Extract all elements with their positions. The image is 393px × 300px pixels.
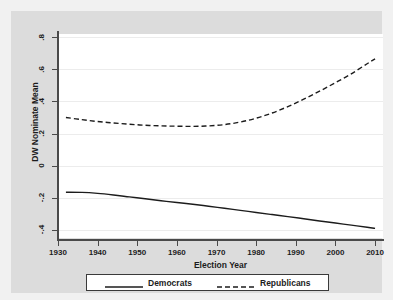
y-tick-label: -.4 — [37, 220, 46, 240]
x-axis-title: Election Year — [58, 260, 383, 270]
legend-key-republicans — [217, 278, 255, 288]
y-tick-mark — [52, 69, 58, 70]
x-tick-mark — [177, 241, 178, 246]
x-tick-mark — [137, 241, 138, 246]
legend-label: Republicans — [260, 278, 311, 288]
chart-legend: DemocratsRepublicans — [86, 274, 329, 291]
legend-entry-republicans: Republicans — [217, 275, 311, 290]
y-tick-label: -.2 — [37, 188, 46, 208]
y-tick-mark — [52, 230, 58, 231]
legend-entry-democrats: Democrats — [105, 275, 192, 290]
x-tick-mark — [256, 241, 257, 246]
x-tick-label: 1990 — [281, 248, 311, 258]
graph-region: .8.6.4.20-.2-.4 193019401950196019701980… — [11, 11, 382, 293]
x-tick-label: 1940 — [83, 248, 113, 258]
x-tick-label: 1980 — [241, 248, 271, 258]
x-tick-label: 1950 — [122, 248, 152, 258]
x-tick-mark — [58, 241, 59, 246]
figure-canvas: .8.6.4.20-.2-.4 193019401950196019701980… — [0, 0, 393, 300]
y-tick-mark — [52, 166, 58, 167]
x-tick-mark — [98, 241, 99, 246]
y-axis-title: DW Nominate Mean — [30, 62, 40, 182]
x-tick-mark — [375, 241, 376, 246]
x-tick-label: 1930 — [43, 248, 73, 258]
y-tick-mark — [52, 37, 58, 38]
series-line-republicans — [66, 59, 375, 126]
x-tick-label: 1960 — [162, 248, 192, 258]
y-tick-label: .8 — [37, 27, 46, 47]
plot-area — [58, 34, 383, 238]
x-tick-mark — [217, 241, 218, 246]
y-tick-mark — [52, 198, 58, 199]
x-tick-label: 1970 — [202, 248, 232, 258]
series-line-democrats — [66, 192, 375, 228]
y-axis-line — [57, 31, 59, 241]
legend-key-democrats — [105, 278, 143, 288]
x-tick-mark — [335, 241, 336, 246]
y-tick-mark — [52, 101, 58, 102]
data-curves — [58, 34, 383, 238]
y-tick-mark — [52, 134, 58, 135]
x-tick-label: 2010 — [360, 248, 390, 258]
legend-label: Democrats — [148, 278, 192, 288]
x-tick-label: 2000 — [320, 248, 350, 258]
x-tick-mark — [296, 241, 297, 246]
